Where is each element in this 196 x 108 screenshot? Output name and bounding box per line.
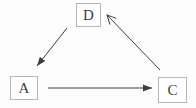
node-c-label: C (167, 83, 177, 98)
node-c: C (158, 77, 187, 103)
diagram-canvas: D A C (0, 0, 196, 108)
node-d: D (76, 3, 101, 27)
node-a: A (10, 76, 38, 100)
edge-d-to-a (37, 28, 67, 66)
edge-c-to-d (107, 15, 160, 70)
node-a-label: A (19, 81, 30, 96)
node-d-label: D (83, 8, 94, 23)
